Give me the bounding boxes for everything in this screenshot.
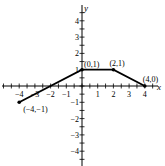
x-tick-label: 4	[143, 90, 147, 99]
data-point	[112, 68, 116, 72]
x-tick-label: 3	[127, 90, 131, 99]
y-tick-label: −4	[70, 147, 79, 156]
y-axis-label: y	[83, 3, 88, 13]
y-tick-label: 4	[75, 17, 79, 26]
y-tick-label: 3	[75, 33, 79, 42]
y-tick-label: −2	[70, 115, 79, 124]
data-point	[17, 101, 21, 105]
x-tick-label: 2	[111, 90, 115, 99]
x-tick-label: −2	[46, 90, 55, 99]
y-tick-label: −3	[70, 131, 79, 140]
y-tick-label: 1	[75, 66, 79, 75]
point-annotation: (2,1)	[109, 59, 125, 68]
labels: xy−4−3−2−11234−4−3−2−11234(−4,−1)(0,1)(2…	[15, 3, 161, 156]
x-tick-label: −1	[62, 90, 71, 99]
point-annotation: (−4,−1)	[23, 105, 48, 114]
y-tick-label: −1	[70, 98, 79, 107]
x-tick-label: −3	[31, 90, 40, 99]
x-tick-label: −4	[15, 90, 24, 99]
y-tick-label: 2	[75, 49, 79, 58]
point-annotation: (0,1)	[84, 60, 100, 69]
point-annotation: (4,0)	[143, 75, 159, 84]
coordinate-plane: xy−4−3−2−11234−4−3−2−11234(−4,−1)(0,1)(2…	[0, 0, 165, 166]
data-point	[143, 84, 147, 88]
x-tick-label: 1	[96, 90, 100, 99]
